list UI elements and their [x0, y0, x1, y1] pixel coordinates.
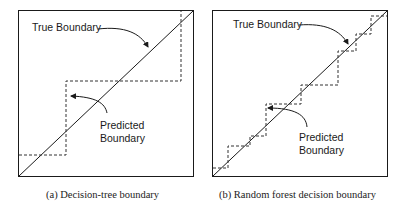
true-boundary-label: True Boundary — [32, 21, 102, 33]
true-boundary-label: True Boundary — [233, 18, 303, 30]
caption-b: (b) Random forest decision boundary — [219, 189, 376, 200]
panel-b-diagram: True Boundary Predicted Boundary — [200, 0, 397, 185]
predicted-boundary-label-line1: Predicted — [100, 119, 145, 131]
predicted-boundary-arrow — [268, 108, 307, 127]
panel-a-diagram: True Boundary Predicted Boundary — [0, 0, 200, 185]
true-boundary-arrow — [299, 25, 348, 44]
predicted-boundary-label-line2: Boundary — [100, 132, 146, 144]
caption-a: (a) Decision-tree boundary — [46, 189, 159, 200]
predicted-boundary-arrow — [71, 96, 107, 113]
true-boundary-line — [19, 11, 193, 176]
predicted-boundary-label-line1: Predicted — [299, 131, 344, 143]
true-boundary-arrow — [98, 28, 148, 47]
predicted-boundary-label-line2: Boundary — [299, 144, 345, 156]
